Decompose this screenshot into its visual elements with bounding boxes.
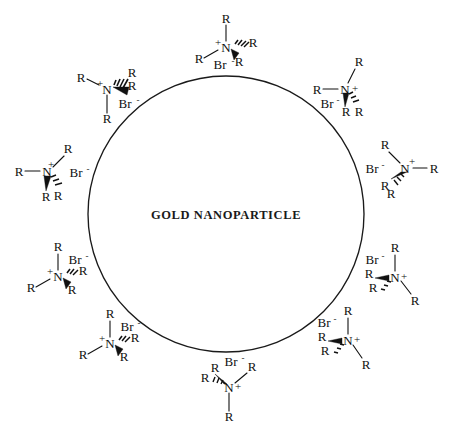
ligand-lower-right: N + R R R R Br - xyxy=(365,240,420,308)
r-group-right: R xyxy=(128,78,137,93)
bromide-minus-charge: - xyxy=(242,353,245,363)
ligand-top: N + R R R R Br - xyxy=(195,11,258,72)
bromide-label: Br xyxy=(366,161,380,176)
r-group-left: R xyxy=(15,164,24,179)
nitrogen-label: N xyxy=(224,380,234,395)
bromide-label: Br xyxy=(214,57,228,72)
ligand-left: N + R R R R Br - xyxy=(15,141,90,204)
r-group-bottom: R xyxy=(103,111,112,126)
ligand-upper-left: N + R R R R Br - xyxy=(77,65,140,126)
r-group-top: R xyxy=(222,11,231,26)
r-group-top: R xyxy=(106,306,115,321)
r-group-lower-left: R xyxy=(321,343,330,358)
r-group-left: R xyxy=(201,370,210,385)
bromide-minus-charge: - xyxy=(382,251,385,261)
nitrogen-label: N xyxy=(340,82,350,97)
nitrogen-label: N xyxy=(105,336,115,351)
r-group-lower-right: R xyxy=(362,357,371,372)
bromide-minus-charge: - xyxy=(382,160,385,170)
bromide-minus-charge: - xyxy=(138,318,141,328)
plus-charge-label: + xyxy=(48,158,54,170)
r-group-left: R xyxy=(318,329,327,344)
solid-wedge-bond xyxy=(328,338,342,344)
gold-nanoparticle-label: GOLD NANOPARTICLE xyxy=(151,208,301,222)
plus-charge-label: + xyxy=(352,82,358,94)
r-group-bottom: R xyxy=(342,104,351,119)
r-group-left: R xyxy=(79,347,88,362)
r-group-top: R xyxy=(54,239,63,254)
plus-charge-label: + xyxy=(235,380,241,392)
bond-n-to-r-left xyxy=(88,346,102,354)
r-group-lower-left: R xyxy=(369,280,378,295)
bond-n-to-r-upper-left xyxy=(389,152,400,163)
nitrogen-label: N xyxy=(53,269,63,284)
r-group-top: R xyxy=(355,54,364,69)
nitrogen-label: N xyxy=(221,40,231,55)
hash-wedge-bond xyxy=(235,40,249,47)
r-group-lower-right: R xyxy=(235,54,244,69)
r-group-upper-right: R xyxy=(248,359,257,374)
r-group-upper-right: R xyxy=(249,35,258,50)
bromide-minus-charge: - xyxy=(87,164,90,174)
bromide-minus-charge: - xyxy=(334,314,337,324)
ligand-bottom: N + R R R R Br - xyxy=(201,353,257,424)
r-group-left: R xyxy=(77,70,86,85)
bromide-label: Br xyxy=(70,165,84,180)
hash-wedge-bond xyxy=(67,269,78,275)
plus-charge-label: + xyxy=(354,333,360,345)
r-group-left: R xyxy=(365,266,374,281)
plus-charge-label: + xyxy=(99,332,105,344)
r-group-lower-right: R xyxy=(68,282,77,297)
r-group-top: R xyxy=(391,240,400,255)
bromide-minus-charge: - xyxy=(232,56,235,66)
nitrogen-label: N xyxy=(390,270,400,285)
plus-charge-label: + xyxy=(97,77,103,89)
bond-n-to-r-up xyxy=(348,69,355,83)
bromide-label: Br xyxy=(366,252,380,267)
nitrogen-label: N xyxy=(343,333,353,348)
plus-charge-label: + xyxy=(215,36,221,48)
bromide-label: Br xyxy=(119,96,133,111)
r-group-top: R xyxy=(344,303,353,318)
hash-wedge-bond xyxy=(51,175,62,185)
r-group-lower-right: R xyxy=(411,293,420,308)
solid-wedge-bond xyxy=(113,87,129,95)
r-group-bottom-right: R xyxy=(54,188,63,203)
bond-n-to-r-lower-right xyxy=(401,281,411,294)
bromide-minus-charge: - xyxy=(337,95,340,105)
hash-wedge-bond xyxy=(119,336,130,342)
r-group-left: R xyxy=(313,82,322,97)
r-group-upper-left: R xyxy=(211,360,220,375)
plus-charge-label: + xyxy=(47,265,53,277)
ligand-bottom-right: N + R R R R Br - xyxy=(318,303,371,372)
bromide-label: Br xyxy=(69,252,83,267)
nanoparticle-diagram: GOLD NANOPARTICLE N + R R R R Br - xyxy=(0,0,450,431)
bond-n-to-r-lower-right xyxy=(353,345,362,358)
r-group-left: R xyxy=(195,51,204,66)
nitrogen-label: N xyxy=(102,82,112,97)
bromide-minus-charge: - xyxy=(86,251,89,261)
r-group-lower-right: R xyxy=(120,349,129,364)
r-group-bottom: R xyxy=(387,186,396,201)
bromide-minus-charge: - xyxy=(137,95,140,105)
bromide-label: Br xyxy=(318,315,332,330)
r-group-right: R xyxy=(430,161,439,176)
ligand-lower-left: N + R R R R Br - xyxy=(27,239,89,297)
plus-charge-label: + xyxy=(401,270,407,282)
r-group-left: R xyxy=(27,280,36,295)
bromide-label: Br xyxy=(321,96,335,111)
ligand-right: N + R R R R Br - xyxy=(366,137,439,201)
r-group-bottom-right: R xyxy=(355,104,364,119)
figure-canvas: GOLD NANOPARTICLE N + R R R R Br - xyxy=(0,0,450,431)
r-group-upper-right: R xyxy=(64,141,73,156)
hash-wedge-bond xyxy=(114,79,128,88)
bromide-label: Br xyxy=(121,319,135,334)
r-group-bottom: R xyxy=(225,409,234,424)
r-group-bottom: R xyxy=(42,189,51,204)
bromide-label: Br xyxy=(225,354,239,369)
bond-n-to-r-upper-right xyxy=(53,156,64,167)
ligand-upper-right: N + R R R R Br - xyxy=(313,54,364,119)
bond-n-to-r-left xyxy=(36,279,50,287)
r-group-upper-left: R xyxy=(381,137,390,152)
plus-charge-label: + xyxy=(409,155,415,167)
